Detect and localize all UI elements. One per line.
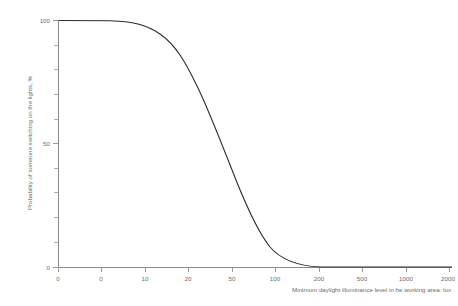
chart-plot-area: 100 50 0 0 0 10 20 50 100 200 500 1000 2… bbox=[0, 0, 458, 306]
x-tick-label-2000: 2000 bbox=[441, 275, 455, 282]
x-axis-title: Minimum daylight illuminance level in he… bbox=[292, 286, 452, 293]
y-axis-title: Probability of someone switching on the … bbox=[26, 75, 33, 210]
x-tick-label-10: 10 bbox=[142, 275, 149, 282]
x-tick-label-100: 100 bbox=[270, 275, 281, 282]
chart-container: 100 50 0 0 0 10 20 50 100 200 500 1000 2… bbox=[0, 0, 458, 306]
x-tick-label-500: 500 bbox=[357, 275, 368, 282]
x-tick-label-50: 50 bbox=[229, 275, 236, 282]
y-tick-label-100: 100 bbox=[40, 17, 51, 24]
probability-curve bbox=[59, 21, 452, 268]
x-tick-label-1000: 1000 bbox=[399, 275, 413, 282]
x-tick-label-20: 20 bbox=[185, 275, 192, 282]
y-tick-label-0: 0 bbox=[47, 264, 51, 271]
x-tick-label-0b: 0 bbox=[99, 275, 103, 282]
x-tick-label-0a: 0 bbox=[56, 275, 60, 282]
x-tick-label-200: 200 bbox=[314, 275, 325, 282]
y-tick-label-50: 50 bbox=[43, 140, 50, 147]
